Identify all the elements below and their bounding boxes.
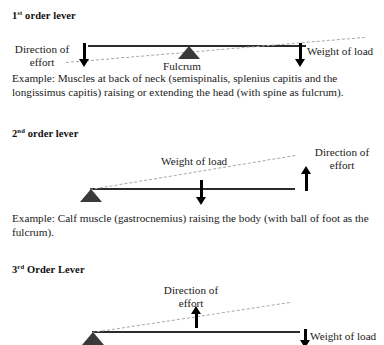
heading-first-order-lever: 1st order lever — [12, 10, 76, 21]
fulcrum-triangle-first-order — [178, 46, 200, 59]
heading-text: order lever — [22, 10, 75, 21]
fulcrum-triangle-third-order — [82, 332, 104, 345]
load-arrow-first-order — [295, 43, 306, 67]
lever-diagram-page: 1st order lever Direction of effort Fulc… — [0, 0, 384, 345]
effort-arrow-first-order — [79, 43, 90, 67]
label-direction-of-effort-second-order: Direction of effort — [303, 146, 381, 172]
heading-text: Order Lever — [24, 264, 84, 275]
effort-label-line1: Direction of — [164, 284, 218, 296]
effort-label-line2: effort — [30, 56, 55, 68]
heading-ordinal-suffix: nd — [17, 127, 25, 134]
label-direction-of-effort-third-order: Direction of effort — [152, 284, 230, 310]
effort-label-line1: Direction of — [315, 146, 369, 158]
label-direction-of-effort-first-order: Direction of effort — [8, 43, 76, 69]
label-weight-of-load-third-order: Weight of load — [310, 330, 376, 343]
effort-label-line2: effort — [179, 297, 204, 309]
example-text-second-order: Example: Calf muscle (gastrocnemius) rai… — [12, 212, 374, 239]
heading-text: order lever — [25, 128, 78, 139]
heading-second-order-lever: 2nd order lever — [12, 128, 78, 139]
effort-label-line2: effort — [330, 159, 355, 171]
fulcrum-triangle-second-order — [80, 189, 102, 202]
heading-third-order-lever: 3rd Order Lever — [12, 264, 85, 275]
lever-bar-second-order — [90, 188, 295, 190]
label-weight-of-load-first-order: Weight of load — [307, 45, 373, 58]
lever-bar-third-order — [92, 331, 300, 333]
example-text-first-order: Example: Muscles at back of neck (semisp… — [12, 72, 374, 99]
effort-label-line1: Direction of — [15, 43, 69, 55]
label-weight-of-load-second-order: Weight of load — [161, 155, 227, 168]
load-arrow-second-order — [196, 180, 207, 205]
